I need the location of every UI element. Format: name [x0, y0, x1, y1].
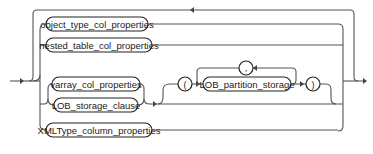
svg-text:): ) [312, 80, 315, 90]
branch-left-upper [33, 24, 46, 81]
arrow-right-icon [363, 78, 367, 84]
svg-text:(: ( [184, 80, 187, 90]
comma-separator-symbol[interactable]: , [239, 61, 253, 75]
node-object-type-col-properties[interactable]: object_type_col_properties [40, 17, 154, 31]
node-varray-col-properties[interactable]: varray_col_properties [50, 77, 142, 91]
node-lob-storage-clause[interactable]: LOB_storage_clause [52, 98, 141, 112]
svg-text:LOB_storage_clause: LOB_storage_clause [52, 100, 141, 111]
node-xmltype-column-properties[interactable]: XMLType_column_properties [38, 123, 161, 137]
svg-text:nested_table_col_properties: nested_table_col_properties [39, 40, 159, 51]
node-nested-table-col-properties[interactable]: nested_table_col_properties [39, 38, 159, 52]
arrow-left-icon [190, 7, 194, 13]
svg-text:object_type_col_properties: object_type_col_properties [40, 19, 154, 30]
open-paren-symbol[interactable]: ( [178, 77, 192, 91]
svg-text:varray_col_properties: varray_col_properties [50, 79, 142, 90]
close-paren-symbol[interactable]: ) [306, 77, 320, 91]
branch-left-lower [40, 75, 46, 130]
svg-text:,: , [245, 63, 248, 73]
railroad-diagram: object_type_col_properties nested_table_… [0, 0, 373, 154]
arrow-right-icon [20, 78, 24, 84]
branch-right-lower [338, 81, 343, 131]
arrow-right-icon [300, 81, 304, 87]
branch-right-upper [338, 24, 343, 81]
svg-text:XMLType_column_properties: XMLType_column_properties [38, 125, 161, 136]
svg-text:LOB_partition_storage: LOB_partition_storage [199, 79, 294, 90]
arrow-left-icon [253, 65, 257, 71]
node-lob-partition-storage[interactable]: LOB_partition_storage [199, 77, 294, 91]
